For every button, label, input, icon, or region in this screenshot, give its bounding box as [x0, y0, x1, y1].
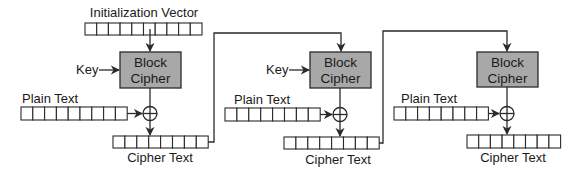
cipher-text-label-2: Cipher Text	[305, 152, 371, 167]
plain-text-label-3: Plain Text	[401, 91, 458, 106]
cipher-text-label-1: Cipher Text	[127, 150, 193, 165]
plain-register-3	[394, 107, 488, 120]
key-label-1: Key	[76, 62, 99, 77]
plain-text-label-1: Plain Text	[22, 91, 79, 106]
cipher-text-label-3: Cipher Text	[480, 150, 546, 165]
plain-text-label-2: Plain Text	[234, 92, 291, 107]
iv-register	[85, 23, 202, 35]
xor-icon-1	[143, 107, 157, 121]
iv-label: Initialization Vector	[90, 5, 199, 20]
block-cipher-2-line1: Block	[324, 55, 357, 70]
cbc-diagram: Initialization Vector Block Cipher Key P…	[0, 0, 580, 173]
cipher-register-1	[113, 136, 208, 148]
block-cipher-1-line2: Cipher	[131, 71, 171, 86]
xor-icon-2	[333, 108, 347, 122]
cipher-register-3	[467, 135, 561, 148]
xor-icon-3	[500, 107, 514, 121]
stage-2: Block Cipher Key Plain Text	[225, 52, 379, 167]
cipher-register-2	[284, 137, 379, 149]
block-cipher-3-line2: Cipher	[488, 71, 528, 86]
stage-3: Block Cipher Plain Text	[394, 52, 561, 165]
stage-1: Block Cipher Key Plain Text	[21, 52, 208, 165]
plain-register-1	[21, 107, 127, 120]
block-cipher-2-line2: Cipher	[321, 71, 361, 86]
plain-register-2	[225, 108, 320, 121]
block-cipher-3-line1: Block	[491, 55, 524, 70]
block-cipher-1-line1: Block	[134, 55, 167, 70]
key-label-2: Key	[266, 62, 289, 77]
